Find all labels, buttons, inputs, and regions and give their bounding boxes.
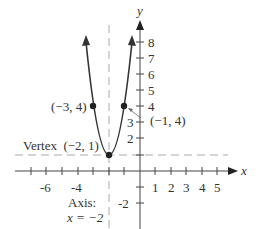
y-tick-neg2: -2 — [118, 197, 129, 210]
y-axis-label: y — [137, 4, 143, 17]
y-tick-8: 8 — [148, 36, 155, 49]
y-tick-7: 7 — [148, 52, 155, 65]
y-tick-4: 4 — [148, 100, 155, 113]
y-axis-arrow-icon — [136, 20, 144, 30]
y-tick-6: 6 — [148, 68, 155, 81]
x-tick-1: 1 — [152, 181, 159, 194]
left-point-label: (−3, 4) — [51, 100, 87, 113]
axis-label-line1: Axis: — [68, 196, 96, 209]
x-axis-label: x — [241, 164, 247, 177]
x-tick-neg6: -6 — [40, 181, 51, 194]
point-neg3-4 — [90, 103, 96, 109]
y-tick-3: 3 — [127, 116, 134, 129]
x-tick-5: 5 — [214, 181, 221, 194]
right-point-label: (−1, 4) — [150, 114, 186, 127]
x-tick-neg4: -4 — [71, 181, 82, 194]
y-tick-5: 5 — [148, 84, 155, 97]
right-arrow-icon — [128, 35, 136, 46]
x-tick-3: 3 — [183, 181, 190, 194]
vertex-point — [106, 152, 112, 158]
left-arrow-icon — [82, 35, 90, 46]
x-tick-4: 4 — [199, 181, 206, 194]
vertex-label: Vertex (−2, 1) — [23, 139, 99, 152]
x-tick-2: 2 — [168, 181, 175, 194]
y-tick-2: 2 — [127, 132, 134, 145]
axis-label-line2: x = −2 — [67, 211, 103, 224]
x-axis-arrow-icon — [228, 167, 238, 175]
point-neg1-4 — [121, 103, 127, 109]
